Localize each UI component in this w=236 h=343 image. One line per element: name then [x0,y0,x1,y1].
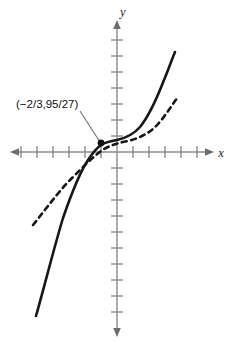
dashed-curve [33,97,178,225]
solid-cubic-curve [36,52,175,316]
graph-figure: y x (−2/3,95/27) [0,0,236,343]
x-axis-left-arrow-icon [10,148,19,156]
y-axis-bottom-arrow-icon [113,328,121,337]
labeled-point-group [80,111,104,146]
point-marker-dot [98,140,105,147]
point-coordinate-label: (−2/3,95/27) [16,98,79,110]
x-axis-right-arrow-icon [205,148,214,156]
axes-group [10,20,214,337]
x-axis-label: x [217,146,224,160]
y-axis-label: y [118,5,126,19]
label-leader-line [80,111,100,142]
y-axis-top-arrow-icon [113,20,121,29]
